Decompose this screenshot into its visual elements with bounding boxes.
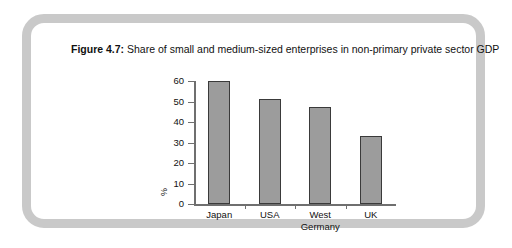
y-tick: 30 (188, 143, 194, 144)
bar (360, 136, 382, 204)
figure-caption: Figure 4.7: Share of small and medium-si… (71, 41, 501, 57)
chart-axes: 0102030405060 JapanUSAWest GermanyUK (194, 81, 396, 204)
x-tick-label: West Germany (295, 209, 346, 232)
y-axis-label: % (157, 185, 171, 199)
x-tick-label: USA (245, 209, 296, 221)
y-tick-label: 0 (179, 197, 184, 211)
y-tick-label: 20 (173, 156, 184, 170)
y-tick: 20 (188, 163, 194, 164)
bar (259, 99, 281, 204)
y-tick: 0 (188, 204, 194, 205)
figure-screenshot: Figure 4.7: Share of small and medium-si… (0, 0, 512, 248)
x-tick-label: UK (346, 209, 397, 221)
figure-number-label: Figure 4.7: (71, 43, 124, 55)
y-tick: 10 (188, 184, 194, 185)
figure-frame: Figure 4.7: Share of small and medium-si… (22, 14, 485, 228)
bar (208, 81, 230, 204)
bar (309, 107, 331, 204)
y-tick-label: 40 (173, 115, 184, 129)
y-tick-label: 30 (173, 136, 184, 150)
y-tick-label: 10 (173, 177, 184, 191)
y-tick-label: 50 (173, 95, 184, 109)
y-tick: 40 (188, 122, 194, 123)
y-tick: 60 (188, 81, 194, 82)
y-tick: 50 (188, 102, 194, 103)
figure-caption-text: Share of small and medium-sized enterpri… (127, 43, 499, 55)
chart-plot-area: % 0102030405060 JapanUSAWest GermanyUK (151, 73, 421, 233)
y-axis-line (194, 81, 196, 204)
x-tick-label: Japan (194, 209, 245, 221)
y-tick-label: 60 (173, 74, 184, 88)
